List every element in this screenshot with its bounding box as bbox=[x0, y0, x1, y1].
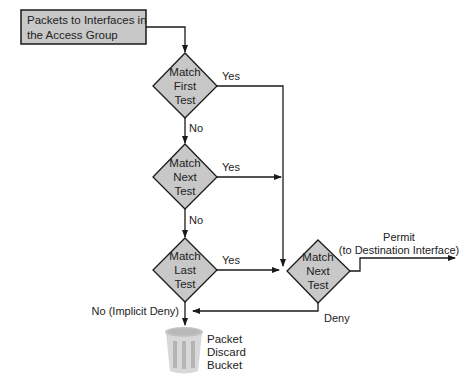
label-deny: Deny bbox=[324, 312, 350, 324]
label-no-1: No bbox=[189, 122, 203, 134]
svg-text:Match: Match bbox=[169, 157, 200, 169]
acl-flowchart: Packets to Interfaces in the Access Grou… bbox=[0, 0, 466, 381]
svg-text:Match: Match bbox=[169, 250, 200, 262]
svg-text:Test: Test bbox=[307, 279, 329, 291]
svg-text:Last: Last bbox=[174, 264, 197, 276]
label-yes-1: Yes bbox=[222, 70, 240, 82]
bucket-label-line1: Packet bbox=[207, 333, 243, 345]
label-permit: Permit bbox=[383, 231, 415, 243]
label-yes-3: Yes bbox=[222, 254, 240, 266]
label-yes-2: Yes bbox=[222, 161, 240, 173]
edge-deny bbox=[193, 303, 318, 311]
svg-text:Test: Test bbox=[174, 94, 196, 106]
trash-bucket-icon bbox=[165, 327, 203, 374]
label-no-2: No bbox=[189, 214, 203, 226]
svg-text:Test: Test bbox=[174, 278, 196, 290]
decision-match-first-test: Match First Test bbox=[153, 53, 217, 118]
bucket-label-line2: Discard bbox=[207, 346, 246, 358]
start-box: Packets to Interfaces in the Access Grou… bbox=[21, 10, 147, 44]
edge-start-to-first-test bbox=[146, 27, 185, 52]
svg-text:Match: Match bbox=[302, 251, 333, 263]
svg-text:Match: Match bbox=[169, 66, 200, 78]
label-permit-destination: (to Destination Interface) bbox=[339, 244, 459, 256]
edge-first-yes bbox=[217, 86, 283, 266]
decision-match-last-test: Match Last Test bbox=[153, 238, 217, 302]
svg-text:Next: Next bbox=[306, 265, 330, 277]
svg-text:First: First bbox=[174, 80, 197, 92]
svg-text:Test: Test bbox=[174, 185, 196, 197]
svg-text:Next: Next bbox=[173, 171, 197, 183]
edge-permit bbox=[350, 258, 455, 271]
bucket-label-line3: Bucket bbox=[207, 359, 243, 371]
start-box-line2: the Access Group bbox=[27, 29, 118, 41]
decision-match-next-test-1: Match Next Test bbox=[153, 144, 217, 209]
start-box-line1: Packets to Interfaces in bbox=[27, 14, 147, 26]
label-implicit-deny: No (Implicit Deny) bbox=[92, 305, 179, 317]
